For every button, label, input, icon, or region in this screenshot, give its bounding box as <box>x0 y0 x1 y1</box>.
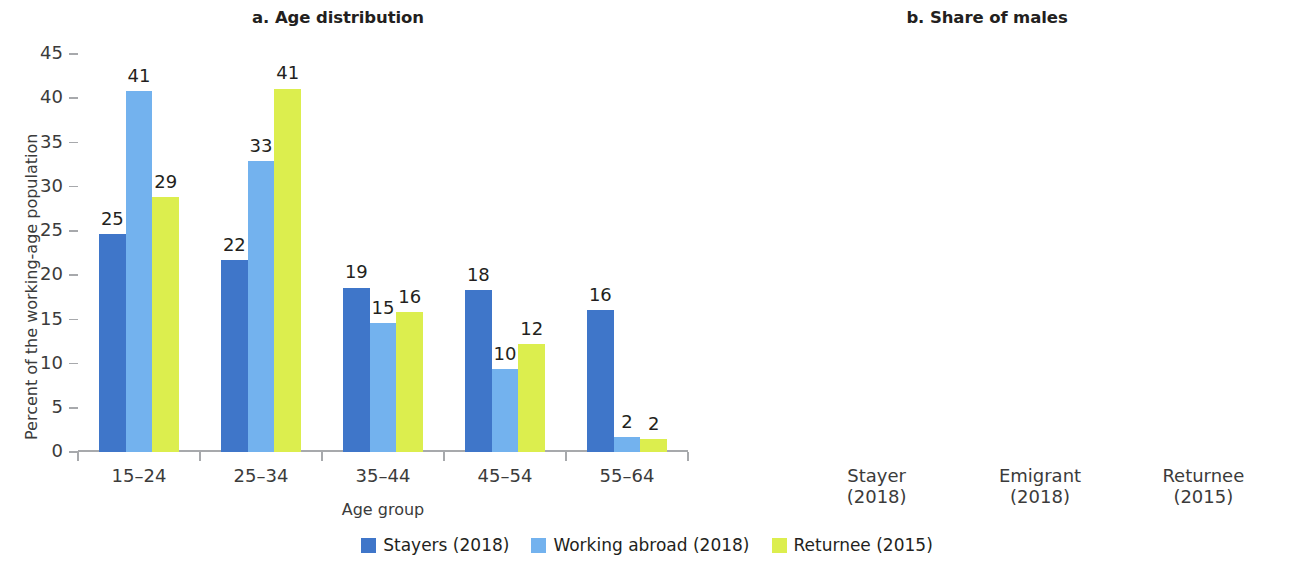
chart-panel-age-distribution: a. Age distribution Percent of the worki… <box>0 0 700 530</box>
chart-a-x-axis-title: Age group <box>78 500 688 519</box>
chart-a-x-tick <box>443 452 445 461</box>
chart-a-bar <box>492 369 519 452</box>
chart-a-bar-value-label: 18 <box>467 266 490 284</box>
chart-a-category-label: 25–34 <box>234 466 289 487</box>
chart-a-bar-value-label: 16 <box>589 286 612 304</box>
chart-a-y-tick-label: 45 <box>40 44 63 62</box>
figure-container: a. Age distribution Percent of the worki… <box>0 0 1294 564</box>
chart-b-category-year: (2018) <box>847 487 907 508</box>
chart-a-plot-area: 0510152025303540452541292233411915161810… <box>78 54 688 452</box>
chart-a-category-label: 55–64 <box>600 466 655 487</box>
chart-a-bar <box>518 344 545 452</box>
chart-a-category-label: 35–44 <box>356 466 411 487</box>
chart-b-category-name: Returnee <box>1162 465 1244 486</box>
chart-a-y-tick-label: 10 <box>40 353 63 371</box>
legend-label: Returnee (2015) <box>794 535 933 555</box>
chart-a-y-tick-label: 30 <box>40 176 63 194</box>
chart-a-bar <box>614 437 641 452</box>
chart-a-y-tick-label: 5 <box>52 398 63 416</box>
chart-a-bar-value-label: 16 <box>398 288 421 306</box>
chart-a-y-tick: 35 <box>69 142 78 144</box>
chart-b-category-label: Returnee(2015) <box>1162 466 1244 507</box>
legend-swatch-3 <box>772 538 787 553</box>
chart-a-bar-value-label: 41 <box>128 67 151 85</box>
chart-panel-share-of-males: b. Share of males Percent of the working… <box>700 0 1294 530</box>
chart-a-x-tick <box>321 452 323 461</box>
chart-a-category-label: 45–54 <box>478 466 533 487</box>
chart-a-category-label: 15–24 <box>112 466 167 487</box>
chart-a-bar-value-label: 2 <box>621 413 632 431</box>
chart-b-category-label: Emigrant(2018) <box>999 466 1081 507</box>
legend-item: Working abroad (2018) <box>531 535 749 555</box>
chart-a-y-tick: 5 <box>69 407 78 409</box>
chart-a-y-tick-label: 35 <box>40 132 63 150</box>
chart-a-bar <box>126 91 153 452</box>
chart-a-bar <box>640 439 667 452</box>
chart-a-bar <box>370 323 397 452</box>
chart-a-bar-value-label: 2 <box>648 415 659 433</box>
chart-a-bar <box>274 89 301 453</box>
chart-a-x-tick <box>687 452 689 461</box>
chart-a-bar <box>343 288 370 453</box>
chart-a-title: a. Age distribution <box>0 8 688 27</box>
chart-a-bar <box>587 310 614 452</box>
chart-a-x-tick <box>565 452 567 461</box>
chart-a-y-tick: 25 <box>69 230 78 232</box>
chart-a-bar-value-label: 29 <box>154 173 177 191</box>
chart-a-bar-value-label: 10 <box>494 345 517 363</box>
legend-item: Stayers (2018) <box>361 535 509 555</box>
chart-a-y-tick: 20 <box>69 274 78 276</box>
chart-b-category-name: Emigrant <box>999 465 1081 486</box>
chart-a-bar-value-label: 25 <box>101 210 124 228</box>
chart-a-bar <box>396 312 423 452</box>
chart-a-y-tick-label: 0 <box>52 442 63 460</box>
chart-a-bar-value-label: 33 <box>250 137 273 155</box>
legend-swatch-1 <box>361 538 376 553</box>
chart-b-category-label: Stayer(2018) <box>847 466 907 507</box>
chart-a-bar <box>221 260 248 452</box>
legend-swatch-2 <box>531 538 546 553</box>
chart-a-bar-value-label: 22 <box>223 236 246 254</box>
chart-legend: Stayers (2018)Working abroad (2018)Retur… <box>0 535 1294 555</box>
chart-a-bar <box>465 290 492 452</box>
chart-a-bar <box>248 161 275 452</box>
chart-a-y-tick: 30 <box>69 186 78 188</box>
chart-a-y-axis-title: Percent of the working-age population <box>22 134 41 440</box>
chart-a-bar-value-label: 41 <box>276 64 299 82</box>
chart-a-y-tick-label: 40 <box>40 88 63 106</box>
chart-b-category-year: (2018) <box>999 487 1081 508</box>
chart-a-y-tick: 45 <box>69 53 78 55</box>
chart-a-y-tick-label: 25 <box>40 221 63 239</box>
chart-a-y-tick-label: 15 <box>40 309 63 327</box>
chart-a-bar-value-label: 15 <box>372 299 395 317</box>
chart-a-x-tick <box>199 452 201 461</box>
chart-a-bar-value-label: 12 <box>520 320 543 338</box>
chart-a-y-tick: 15 <box>69 319 78 321</box>
chart-a-y-tick: 10 <box>69 363 78 365</box>
chart-a-y-tick: 40 <box>69 97 78 99</box>
chart-a-x-tick <box>77 452 79 461</box>
chart-b-category-name: Stayer <box>847 465 906 486</box>
legend-item: Returnee (2015) <box>772 535 933 555</box>
chart-a-y-tick-label: 20 <box>40 265 63 283</box>
chart-a-bar <box>99 234 126 452</box>
legend-label: Stayers (2018) <box>383 535 509 555</box>
chart-a-bar-value-label: 19 <box>345 263 368 281</box>
chart-b-title: b. Share of males <box>690 8 1284 27</box>
chart-a-bar <box>152 197 179 452</box>
chart-b-category-year: (2015) <box>1162 487 1244 508</box>
legend-label: Working abroad (2018) <box>553 535 749 555</box>
